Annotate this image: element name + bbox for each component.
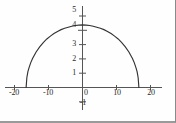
- y-tick-label-5: 5: [62, 6, 76, 14]
- x-tick-label-neg20: -20: [3, 89, 25, 97]
- x-tick-label-20: 20: [140, 89, 162, 97]
- chart-canvas: [0, 0, 176, 123]
- y-tick-label-1: 1: [62, 69, 76, 77]
- y-tick-label-4: 4: [62, 21, 76, 29]
- chart-plot-area: 5 4 3 2 1 -1 0 -20 -10 10 20: [0, 0, 176, 123]
- x-tick-label-neg10: -10: [37, 89, 59, 97]
- x-tick-label-10: 10: [106, 89, 128, 97]
- origin-label: 0: [84, 89, 88, 97]
- y-tick-label-2: 2: [62, 55, 76, 63]
- y-tick-label-3: 3: [62, 40, 76, 48]
- y-tick-label-neg1: -1: [72, 99, 86, 107]
